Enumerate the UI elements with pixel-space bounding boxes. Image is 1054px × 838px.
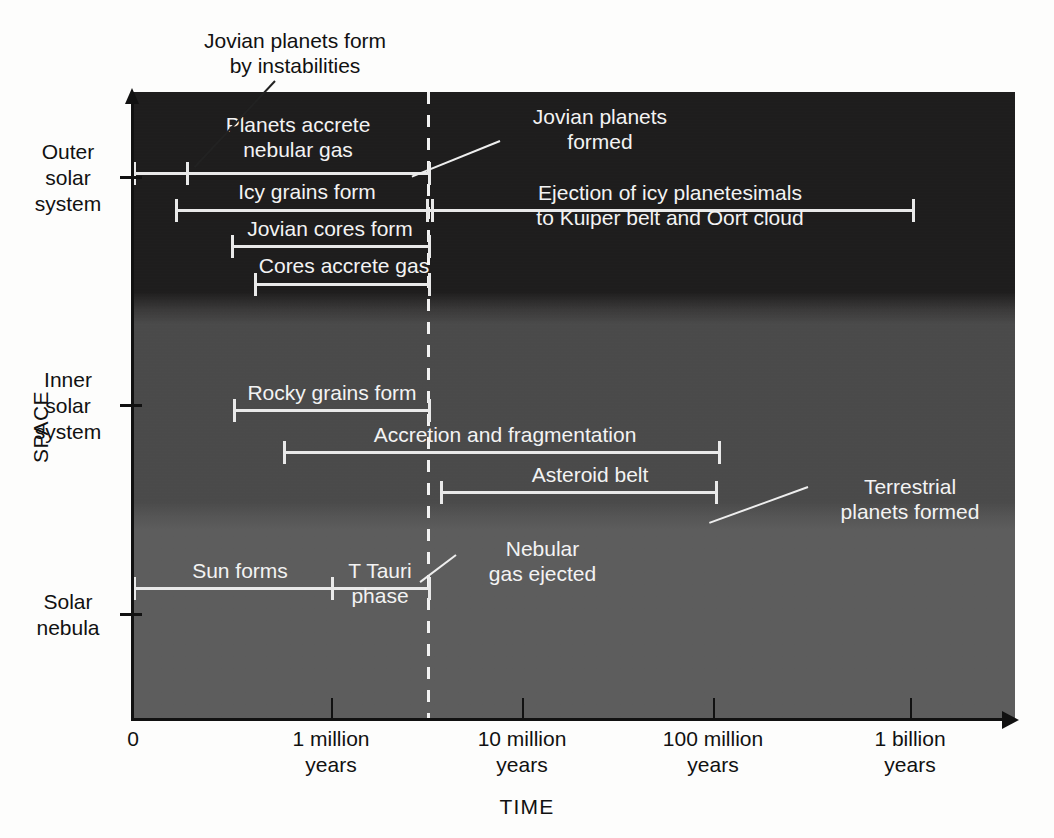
event-label-accretion-and-fragmentation: Accretion and fragmentation [355, 422, 655, 447]
event-bar-cap-asteroid-belt [715, 481, 718, 504]
event-bar-cores-accrete-gas [254, 283, 428, 286]
event-bar-cap-planets-accrete-nebular-gas [428, 162, 431, 185]
event-bar-cap-icy-grains-form [912, 199, 915, 222]
formation-timeline-figure: Planets accrete nebular gasIcy grains fo… [0, 0, 1054, 838]
event-label-ejection-of-icy-planetesimals-to-kuiper-: Ejection of icy planetesimals to Kuiper … [500, 180, 840, 230]
event-label-jovian-cores-form: Jovian cores form [230, 216, 430, 241]
callout-label-nebular-gas-ejected: Nebular gas ejected [455, 536, 630, 586]
event-label-planets-accrete-nebular-gas: Planets accrete nebular gas [183, 112, 413, 162]
y-axis-category-outer-solar-system: Outer solar system [8, 139, 128, 217]
event-label-icy-grains-form: Icy grains form [187, 179, 427, 204]
y-axis-title: SPACE [29, 367, 53, 487]
event-label-asteroid-belt: Asteroid belt [510, 462, 670, 487]
y-axis-line [131, 100, 134, 721]
x-axis-tick-label-2: 10 million years [447, 726, 597, 777]
event-bar-cap-icy-grains-form [175, 199, 178, 222]
y-axis-arrow-icon [125, 88, 139, 104]
event-label-rocky-grains-form: Rocky grains form [232, 380, 432, 405]
event-bar-asteroid-belt [440, 491, 715, 494]
x-axis-tick-label-0: 0 [58, 726, 208, 752]
x-axis-title: TIME [0, 795, 1054, 819]
x-axis-tick-3 [713, 698, 715, 719]
event-bar-planets-accrete-nebular-gas [133, 172, 428, 175]
event-label-t-tauri-phase: T Tauri phase [335, 558, 425, 608]
y-axis-category-inner-solar-system: Inner solar system [8, 367, 128, 445]
callout-label-terrestrial-planets-formed: Terrestrial planets formed [810, 474, 1010, 524]
event-bar-jovian-cores-form [231, 245, 428, 248]
x-axis-arrow-icon [1002, 711, 1019, 729]
event-label-sun-forms: Sun forms [165, 558, 315, 583]
event-bar-cap-accretion-and-fragmentation [718, 441, 721, 464]
event-label-cores-accrete-gas: Cores accrete gas [249, 253, 439, 278]
region-gradient-outer-inner [133, 292, 1015, 324]
y-axis-category-solar-nebula: Solar nebula [8, 589, 128, 641]
event-bar-rocky-grains-form [233, 409, 428, 412]
x-axis-tick-label-1: 1 million years [256, 726, 406, 777]
x-axis-tick-label-4: 1 billion years [835, 726, 985, 777]
x-axis-tick-1 [331, 698, 333, 719]
x-axis-tick-label-3: 100 million years [638, 726, 788, 777]
event-bar-cap-sun-forms [428, 577, 431, 600]
x-axis-tick-2 [522, 698, 524, 719]
event-bar-accretion-and-fragmentation [283, 451, 718, 454]
event-bar-cap-accretion-and-fragmentation [283, 441, 286, 464]
event-bar-cap-asteroid-belt [440, 481, 443, 504]
callout-label-jovian-planets-formed: Jovian planets formed [500, 104, 700, 154]
x-axis-tick-4 [910, 698, 912, 719]
x-axis-line [131, 718, 1009, 721]
callout-label-jovian-planets-form-by-instabilities: Jovian planets form by instabilities [150, 28, 440, 78]
